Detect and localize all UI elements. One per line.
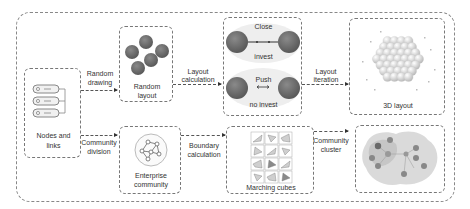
random-drawing-arrow [81, 90, 117, 91]
cluster-node [387, 137, 393, 143]
community-cluster-label-2: cluster [313, 145, 349, 154]
particle [374, 89, 376, 91]
cluster-node [404, 152, 409, 157]
marching-cube-cell [251, 132, 264, 144]
boundary-calculation-label-2: calculation [182, 150, 226, 159]
sphere [278, 31, 300, 53]
cluster-node [369, 155, 375, 161]
marching-cubes-box: Marching cubes [226, 126, 314, 194]
marching-cube-cell [265, 158, 278, 170]
particle [380, 31, 382, 33]
layout-calculation-label-2: calculation [176, 75, 220, 84]
particle [428, 81, 430, 83]
sphere [404, 72, 413, 81]
particle [416, 89, 418, 91]
marching-cube-cell [279, 171, 292, 183]
marching-cube-cell [279, 145, 292, 157]
cluster-node [413, 145, 419, 151]
cluster-node [385, 151, 391, 157]
community-division-arrow [81, 135, 117, 136]
enterprise-community-label-1: Enterprise [120, 171, 182, 180]
community-division-label-2: division [80, 147, 118, 156]
marching-cube-cell [279, 132, 292, 144]
particle [362, 61, 364, 63]
random-layout-box: Random layout [119, 26, 173, 102]
cluster-node [401, 171, 407, 177]
3d-layout-box: 3D layout [349, 18, 445, 115]
marching-cube-cell [265, 132, 278, 144]
enterprise-community-box: Enterprise community [119, 126, 181, 194]
cluster-node [421, 163, 427, 169]
nodes-and-links-label-1: Nodes and [25, 131, 82, 140]
no-invest-label: no invest [244, 100, 283, 109]
enterprise-community-label-2: community [120, 180, 182, 189]
layout-calculation-arrow [173, 84, 221, 85]
3d-layout-label: 3D layout [350, 101, 446, 110]
push-label: Push [244, 75, 283, 84]
cluster-node [375, 163, 381, 169]
marching-cube-cell [251, 158, 264, 170]
marching-cubes-label: Marching cubes [227, 183, 315, 192]
particle [430, 49, 432, 51]
particle [424, 37, 426, 39]
random-drawing-label-2: drawing [84, 78, 116, 87]
close-label: Close [244, 22, 283, 31]
community-cluster-label-1: Community [313, 136, 349, 145]
layout-iteration-arrow [302, 84, 348, 85]
random-layout-label-2: layout [120, 91, 174, 100]
marching-cube-cell [251, 171, 264, 183]
invest-label: invest [244, 52, 283, 61]
particle [434, 69, 436, 71]
layout-iteration-label-2: iteration [305, 75, 347, 84]
boundary-calculation-label-1: Boundary [182, 141, 226, 150]
nodes-and-links-label-2: links [25, 141, 82, 150]
marching-cube-cell [265, 171, 278, 183]
marching-cube-cell [279, 158, 292, 170]
random-drawing-label-1: Random [84, 69, 116, 78]
cluster-node [375, 143, 381, 149]
particle [370, 41, 372, 43]
marching-cube-cell [265, 145, 278, 157]
force-layout-box: Close invest Push no invest [223, 17, 302, 116]
random-layout-label-1: Random [120, 82, 174, 91]
sphere [226, 31, 248, 53]
community-division-label-1: Community [80, 138, 118, 147]
nodes-and-links-box: Nodes and links [24, 68, 81, 158]
particle [366, 79, 368, 81]
marching-cube-cell [251, 145, 264, 157]
community-cluster-box [355, 125, 445, 193]
cluster-node [413, 155, 419, 161]
boundary-calculation-arrow [181, 135, 225, 136]
community-cluster-arrow [314, 131, 348, 132]
community-cluster-blob [356, 126, 446, 194]
